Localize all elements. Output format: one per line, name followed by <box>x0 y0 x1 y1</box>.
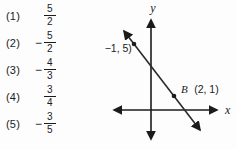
point-b-coords: (2, 1) <box>194 83 219 95</box>
choice-1: (1) 5 2 <box>6 2 56 29</box>
point-b-name: B <box>181 83 188 95</box>
point-a-dot <box>132 42 137 47</box>
choice-3-sign: − <box>28 63 44 77</box>
x-axis-label: x <box>224 103 231 117</box>
choice-5-numerator: 3 <box>44 112 56 124</box>
choice-3-numerator: 4 <box>44 58 56 70</box>
question-fragment: (1) 5 2 (2) − 5 2 (3) − 4 3 (4) <box>0 0 237 149</box>
choice-1-number: (1) <box>6 10 28 22</box>
choice-2-number: (2) <box>6 37 28 49</box>
y-axis-label: y <box>149 1 156 15</box>
choice-4-number: (4) <box>6 91 28 103</box>
choice-4-numerator: 3 <box>44 85 56 97</box>
choice-4-fraction: 3 4 <box>44 85 56 108</box>
choice-3-fraction: 4 3 <box>44 58 56 81</box>
choice-5-denominator: 5 <box>44 124 56 135</box>
choice-5-sign: − <box>28 117 44 131</box>
choice-2-denominator: 2 <box>44 43 56 54</box>
choice-5-fraction: 3 5 <box>44 112 56 135</box>
choice-2: (2) − 5 2 <box>6 29 56 56</box>
choice-3-denominator: 3 <box>44 70 56 81</box>
point-a-label: A (−1, 5) <box>105 38 132 55</box>
choice-1-denominator: 2 <box>44 16 56 27</box>
choice-2-sign: − <box>28 36 44 50</box>
choice-2-fraction: 5 2 <box>44 31 56 54</box>
choice-3-number: (3) <box>6 64 28 76</box>
choice-2-numerator: 5 <box>44 31 56 43</box>
choice-4: (4) 3 4 <box>6 83 56 110</box>
choice-1-numerator: 5 <box>44 4 56 16</box>
answer-choices: (1) 5 2 (2) − 5 2 (3) − 4 3 (4) <box>6 2 56 137</box>
point-a-coords: (−1, 5) <box>105 42 132 54</box>
choice-1-fraction: 5 2 <box>44 4 56 27</box>
choice-5: (5) − 3 5 <box>6 110 56 137</box>
choice-4-denominator: 4 <box>44 97 56 108</box>
point-b-dot <box>172 94 177 99</box>
choice-5-number: (5) <box>6 118 28 130</box>
coordinate-plane: y x A (−1, 5) B (2, 1) <box>105 0 237 149</box>
choice-3: (3) − 4 3 <box>6 56 56 83</box>
point-b-label: B (2, 1) <box>181 79 219 96</box>
